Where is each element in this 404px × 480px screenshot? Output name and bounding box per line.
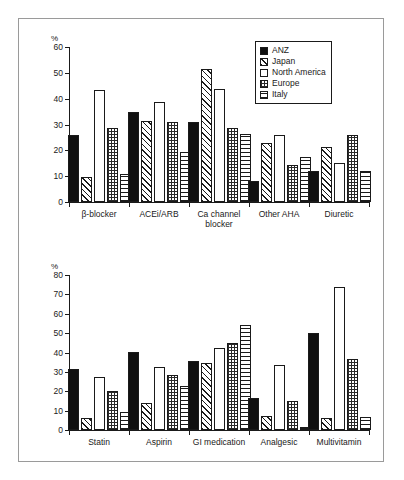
x-axis-category-label: Ca channel blocker [189, 209, 249, 229]
bar-italy [360, 171, 371, 202]
legend-item-na: North America [260, 67, 326, 78]
legend-item-jpn: Japan [260, 56, 326, 67]
legend-label-eur: Europe [272, 79, 299, 88]
bar-europe [287, 165, 298, 202]
legend-label-jpn: Japan [272, 57, 295, 66]
y-axis-tick-label: 10 [54, 172, 63, 181]
legend: ANZJapanNorth AmericaEuropeItaly [255, 41, 332, 104]
x-axis-group-tick [69, 203, 70, 207]
legend-item-eur: Europe [260, 78, 326, 89]
y-axis-tick-label: 30 [54, 121, 63, 130]
chart-panel-bottom: % 01020304050607080StatinAspirinGI medic… [19, 255, 385, 459]
legend-label-ita: Italy [272, 90, 288, 99]
legend-item-ita: Italy [260, 89, 326, 100]
bar-north-america [214, 89, 225, 202]
legend-swatch-ita [260, 91, 268, 99]
x-axis-line [69, 430, 370, 431]
bar-north-america [94, 90, 105, 202]
bar-anz [128, 112, 139, 202]
x-axis-category-label: Analgesic [249, 437, 309, 447]
x-axis-category-label: Aspirin [129, 437, 189, 447]
x-axis-group-tick [369, 431, 370, 435]
y-axis-tick [65, 73, 69, 74]
bar-anz [188, 122, 199, 202]
x-axis-group-tick [189, 203, 190, 207]
bar-japan [141, 403, 152, 430]
x-axis-group-tick [129, 431, 130, 435]
bar-europe [227, 343, 238, 430]
bar-japan [81, 418, 92, 430]
legend-swatch-anz [260, 47, 268, 55]
bar-europe [227, 128, 238, 202]
y-axis-tick-label: 60 [54, 310, 63, 319]
legend-label-na: North America [272, 68, 326, 77]
chart-panel-top: % 0102030405060β-blockerACEi/ARBCa chann… [19, 25, 385, 253]
x-axis-category-label: Multivitamin [309, 437, 369, 447]
bar-europe [347, 359, 358, 430]
bar-europe [347, 135, 358, 202]
y-axis-tick-label: 0 [58, 198, 63, 207]
bar-anz [68, 369, 79, 430]
legend-swatch-jpn [260, 58, 268, 66]
bar-north-america [334, 163, 345, 202]
y-axis-tick-label: 80 [54, 271, 63, 280]
bar-japan [261, 416, 272, 430]
bar-north-america [274, 135, 285, 202]
bar-japan [201, 69, 212, 202]
y-axis-tick-label: 20 [54, 387, 63, 396]
x-axis-category-label: β-blocker [69, 209, 129, 219]
bar-north-america [214, 348, 225, 430]
y-axis-tick-label: 50 [54, 69, 63, 78]
legend-swatch-eur [260, 80, 268, 88]
y-axis-tick-label: 40 [54, 95, 63, 104]
bar-anz [68, 135, 79, 202]
y-axis-tick [65, 275, 69, 276]
bar-japan [81, 177, 92, 202]
bar-anz [188, 361, 199, 430]
y-axis-tick-label: 70 [54, 290, 63, 299]
bar-europe [107, 128, 118, 202]
x-axis-group-tick [129, 203, 130, 207]
figure-frame: % 0102030405060β-blockerACEi/ARBCa chann… [18, 18, 384, 462]
x-axis-group-tick [189, 431, 190, 435]
bar-europe [167, 375, 178, 430]
x-axis-category-label: Statin [69, 437, 129, 447]
y-axis-tick-label: 10 [54, 407, 63, 416]
bar-europe [167, 122, 178, 202]
x-axis-category-label: GI medication [189, 437, 249, 447]
bar-north-america [154, 102, 165, 202]
x-axis-group-tick [309, 203, 310, 207]
x-axis-group-tick [249, 431, 250, 435]
bar-japan [321, 147, 332, 202]
bar-italy [360, 417, 371, 430]
bar-japan [141, 121, 152, 202]
y-axis-tick-label: 40 [54, 349, 63, 358]
bar-europe [107, 391, 118, 430]
y-axis-tick-label: 50 [54, 329, 63, 338]
bar-north-america [334, 287, 345, 430]
y-axis-tick [65, 314, 69, 315]
bar-north-america [94, 377, 105, 430]
bar-japan [261, 143, 272, 202]
bar-north-america [274, 365, 285, 430]
x-axis-group-tick [249, 203, 250, 207]
bar-anz [248, 181, 259, 202]
x-axis-group-tick [309, 431, 310, 435]
plot-area-bottom: 01020304050607080StatinAspirinGI medicat… [69, 275, 369, 430]
bar-europe [287, 401, 298, 430]
y-axis-tick [65, 99, 69, 100]
bar-japan [321, 418, 332, 430]
x-axis-category-label: ACEi/ARB [129, 209, 189, 219]
bar-japan [201, 363, 212, 430]
bar-anz [308, 333, 319, 430]
y-axis-tick [65, 353, 69, 354]
x-axis-line [69, 202, 370, 203]
y-axis-tick [65, 294, 69, 295]
bar-anz [128, 352, 139, 430]
y-axis-tick [65, 125, 69, 126]
x-axis-group-tick [69, 431, 70, 435]
y-axis-tick-label: 30 [54, 368, 63, 377]
legend-swatch-na [260, 69, 268, 77]
y-axis-tick [65, 333, 69, 334]
x-axis-category-label: Other AHA [249, 209, 309, 219]
